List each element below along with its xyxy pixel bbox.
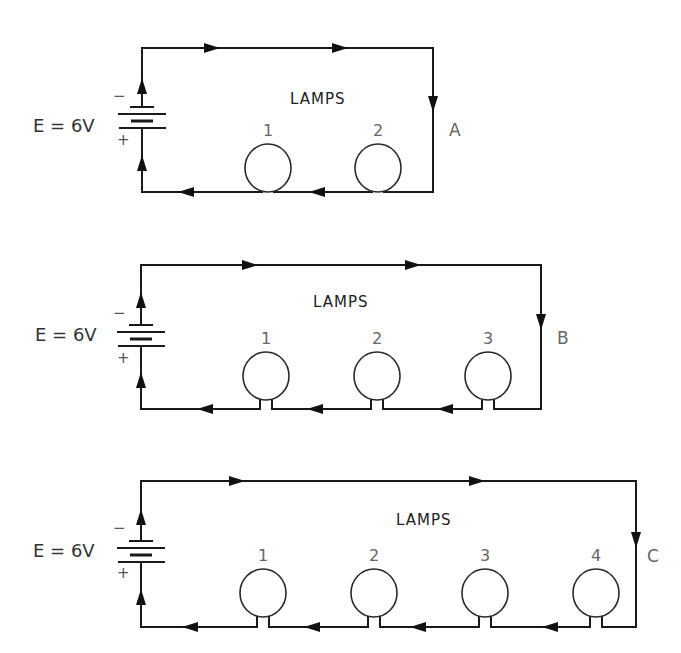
lamp-number: 2 <box>373 121 383 140</box>
circuit-a: 12E = 6V−+LAMPSA <box>33 43 461 197</box>
battery <box>117 541 165 562</box>
arrow-right-icon <box>405 260 421 270</box>
arrow-left-icon <box>437 404 453 414</box>
arrow-right-icon <box>204 43 220 53</box>
arrow-up-icon <box>136 372 146 388</box>
lamp-3: 3 <box>462 546 508 617</box>
lamp-2: 2 <box>355 121 401 192</box>
lamp-number: 1 <box>261 329 271 348</box>
lamp-3: 3 <box>465 329 511 400</box>
circuit-id-label: A <box>449 120 461 140</box>
arrow-up-icon <box>137 78 147 94</box>
lamp-number: 1 <box>258 546 268 565</box>
lamp-bulb-icon <box>351 569 397 617</box>
battery <box>117 325 165 346</box>
emf-label: E = 6V <box>33 115 95 136</box>
negative-terminal-label: − <box>113 519 126 537</box>
lamp-bulb-icon <box>354 352 400 400</box>
arrow-left-icon <box>182 622 198 632</box>
lamps: 123 <box>243 329 511 400</box>
lamp-bulb-icon <box>245 144 291 192</box>
lamp-1: 1 <box>240 546 286 617</box>
arrow-right-icon <box>469 476 485 486</box>
arrow-right-icon <box>242 260 258 270</box>
lamp-number: 4 <box>591 546 601 565</box>
lamp-bulb-icon <box>462 569 508 617</box>
lamp-bulb-icon <box>465 352 511 400</box>
lamp-number: 3 <box>480 546 490 565</box>
lamps-title: LAMPS <box>396 511 451 529</box>
lamps-title: LAMPS <box>290 90 345 108</box>
arrow-up-icon <box>136 509 146 525</box>
series-circuit-diagram: 12E = 6V−+LAMPSA123E = 6V−+LAMPSB1234E =… <box>0 0 681 653</box>
lamps: 1234 <box>240 546 619 617</box>
positive-terminal-label: + <box>117 131 130 149</box>
arrow-left-icon <box>197 404 213 414</box>
lamp-1: 1 <box>243 329 289 400</box>
lamps-title: LAMPS <box>313 293 368 311</box>
arrow-left-icon <box>410 622 426 632</box>
negative-terminal-label: − <box>113 87 126 105</box>
lamp-number: 1 <box>263 121 273 140</box>
arrow-up-icon <box>136 292 146 308</box>
battery <box>118 107 166 128</box>
positive-terminal-label: + <box>117 564 130 582</box>
arrow-up-icon <box>136 589 146 605</box>
negative-terminal-label: − <box>113 304 126 322</box>
arrow-down-icon <box>536 314 546 330</box>
circuit-id-label: C <box>647 546 659 566</box>
arrow-left-icon <box>178 187 194 197</box>
circuit-b: 123E = 6V−+LAMPSB <box>35 260 569 414</box>
lamp-4: 4 <box>573 546 619 617</box>
lamps: 12 <box>245 121 401 192</box>
positive-terminal-label: + <box>117 349 130 367</box>
lamp-2: 2 <box>354 329 400 400</box>
arrow-down-icon <box>631 532 641 548</box>
emf-label: E = 6V <box>33 540 95 561</box>
lamp-1: 1 <box>245 121 291 192</box>
arrow-up-icon <box>137 155 147 171</box>
lamp-2: 2 <box>351 546 397 617</box>
arrow-right-icon <box>229 476 245 486</box>
lamp-number: 2 <box>369 546 379 565</box>
lamp-bulb-icon <box>355 144 401 192</box>
lamp-bulb-icon <box>240 569 286 617</box>
circuit-id-label: B <box>557 328 569 348</box>
arrow-left-icon <box>542 622 558 632</box>
circuit-c: 1234E = 6V−+LAMPSC <box>33 476 659 632</box>
arrow-left-icon <box>309 187 325 197</box>
arrow-right-icon <box>332 43 348 53</box>
emf-label: E = 6V <box>35 324 97 345</box>
arrow-left-icon <box>304 622 320 632</box>
arrow-left-icon <box>307 404 323 414</box>
lamp-number: 2 <box>372 329 382 348</box>
lamp-bulb-icon <box>243 352 289 400</box>
arrow-down-icon <box>428 96 438 112</box>
lamp-bulb-icon <box>573 569 619 617</box>
lamp-number: 3 <box>483 329 493 348</box>
